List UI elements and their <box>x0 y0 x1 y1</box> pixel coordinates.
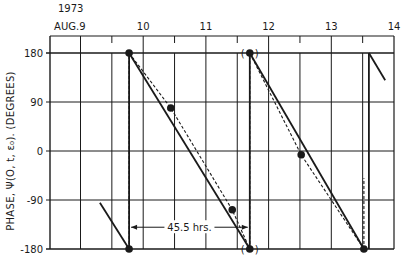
bracket-right: ) <box>255 244 259 255</box>
data-point <box>228 206 236 214</box>
y-tick-label: -90 <box>27 195 43 206</box>
phase-chart: AUG.91011121314 180900-90-180 ()() 45.5 … <box>0 0 405 261</box>
period-annotation: 45.5 hrs. <box>167 222 211 233</box>
data-point <box>297 151 305 159</box>
y-tick-label: -180 <box>20 244 43 255</box>
solid-phase-line <box>100 203 129 249</box>
x-tick-label: 12 <box>262 21 275 32</box>
x-tick-label: 11 <box>200 21 213 32</box>
annotations: 45.5 hrs. <box>131 220 248 233</box>
data-point <box>125 245 133 253</box>
data-point <box>360 245 368 253</box>
bracket-left: ( <box>241 48 245 59</box>
y-tick-labels: 180900-90-180 <box>20 48 43 255</box>
x-tick-label: 14 <box>388 21 401 32</box>
grid <box>46 36 394 249</box>
x-tick-labels: AUG.91011121314 <box>54 21 400 32</box>
data-point <box>246 245 254 253</box>
data-point <box>167 104 175 112</box>
solid-phase-line <box>369 53 385 80</box>
axes <box>50 36 394 249</box>
y-tick-label: 180 <box>24 48 43 59</box>
bracket-right: ) <box>255 48 259 59</box>
data-point <box>246 49 254 57</box>
arrowhead-right <box>242 225 248 230</box>
data-point <box>125 49 133 57</box>
y-tick-label: 0 <box>37 146 43 157</box>
y-tick-label: 90 <box>30 97 43 108</box>
x-tick-label: AUG.9 <box>54 21 85 32</box>
bracket-left: ( <box>241 244 245 255</box>
x-tick-label: 13 <box>325 21 338 32</box>
x-tick-label: 10 <box>137 21 150 32</box>
arrowhead-left <box>131 225 137 230</box>
